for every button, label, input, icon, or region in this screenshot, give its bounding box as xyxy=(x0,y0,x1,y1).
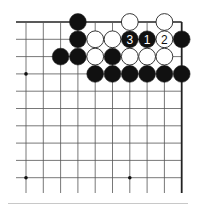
star-point-icon xyxy=(24,72,28,76)
move-number: 3 xyxy=(126,33,133,47)
black-stone xyxy=(87,66,104,83)
white-stone xyxy=(104,31,121,48)
move-number: 1 xyxy=(144,33,151,47)
star-point-icon xyxy=(128,176,132,180)
white-stone xyxy=(87,48,104,65)
white-stone-2: 2 xyxy=(156,31,173,48)
white-stone xyxy=(156,14,173,31)
black-stone xyxy=(104,66,121,83)
black-stone xyxy=(70,14,87,31)
black-stone xyxy=(156,66,173,83)
go-board-diagram: 312 xyxy=(0,0,202,206)
black-stone-1: 1 xyxy=(139,31,156,48)
move-number: 2 xyxy=(161,33,168,47)
white-stone xyxy=(121,14,138,31)
stones-layer: 312 xyxy=(52,14,190,83)
white-stone xyxy=(121,48,138,65)
black-stone xyxy=(173,66,190,83)
black-stone xyxy=(104,48,121,65)
black-stone-3: 3 xyxy=(121,31,138,48)
white-stone xyxy=(139,48,156,65)
black-stone xyxy=(121,66,138,83)
star-point-icon xyxy=(24,176,28,180)
black-stone xyxy=(139,66,156,83)
black-stone xyxy=(52,48,69,65)
white-stone xyxy=(87,31,104,48)
board-grid xyxy=(16,22,182,193)
black-stone xyxy=(70,48,87,65)
black-stone xyxy=(70,31,87,48)
white-stone xyxy=(156,48,173,65)
bottom-divider xyxy=(8,203,188,204)
black-stone xyxy=(173,31,190,48)
